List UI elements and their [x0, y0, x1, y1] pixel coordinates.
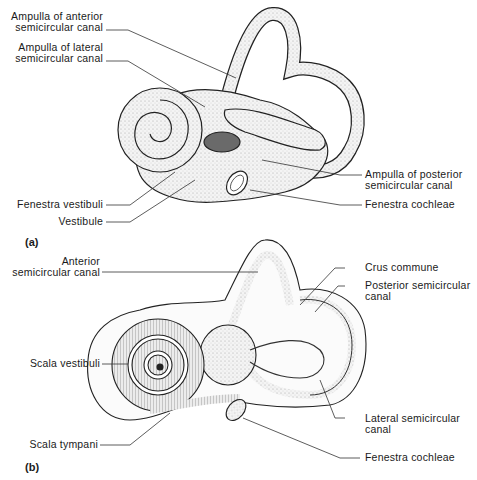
- panel-a-label: (a): [25, 236, 38, 248]
- panel-b-drawing: [88, 240, 366, 424]
- label-ampulla-anterior: Ampulla of anterior semicircular canal: [0, 11, 103, 33]
- label-ampulla-lateral: Ampulla of lateral semicircular canal: [0, 42, 103, 64]
- label-ampulla-posterior-line2: semicircular canal: [365, 180, 462, 191]
- label-anterior-canal: Anterior semicircular canal: [0, 256, 100, 278]
- label-ampulla-lateral-line2: semicircular canal: [0, 53, 103, 64]
- label-lateral-canal-line2: canal: [365, 424, 460, 435]
- label-fenestra-vestibuli: Fenestra vestibuli: [0, 199, 103, 210]
- label-ampulla-posterior: Ampulla of posterior semicircular canal: [365, 169, 462, 191]
- label-scala-vestibuli: Scala vestibuli: [0, 358, 100, 369]
- inner-ear-illustration: [0, 0, 477, 480]
- label-posterior-canal-line2: canal: [365, 291, 470, 302]
- label-fenestra-cochleae-a: Fenestra cochleae: [365, 199, 455, 210]
- label-ampulla-anterior-line2: semicircular canal: [0, 22, 103, 33]
- label-anterior-canal-line2: semicircular canal: [0, 267, 100, 278]
- label-posterior-canal: Posterior semicircular canal: [365, 280, 470, 302]
- label-crus-commune: Crus commune: [365, 262, 439, 273]
- label-fenestra-cochleae-b: Fenestra cochleae: [365, 452, 455, 463]
- panel-a-drawing: [118, 14, 358, 202]
- label-scala-tympani: Scala tympani: [0, 439, 98, 450]
- label-lateral-canal: Lateral semicircular canal: [365, 413, 460, 435]
- label-vestibule: Vestibule: [0, 216, 103, 227]
- panel-b-label: (b): [25, 461, 39, 473]
